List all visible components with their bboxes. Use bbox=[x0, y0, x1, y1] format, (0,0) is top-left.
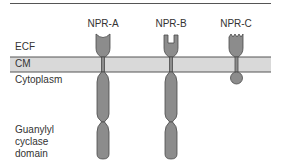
region-label-ecf: ECF bbox=[15, 41, 35, 53]
domain-label-line2: cyclase bbox=[15, 136, 54, 148]
domain-label: Guanylyl cyclase domain bbox=[15, 124, 54, 160]
receptor-label-npr-a: NPR-A bbox=[87, 18, 118, 29]
domain-label-line1: Guanylyl bbox=[15, 124, 54, 136]
cell-membrane bbox=[10, 57, 271, 72]
domain-label-line3: domain bbox=[15, 148, 54, 160]
region-label-cytoplasm: Cytoplasm bbox=[15, 74, 62, 86]
region-label-cm: CM bbox=[15, 58, 31, 70]
receptor-npr-b bbox=[164, 35, 178, 159]
receptor-label-npr-b: NPR-B bbox=[155, 18, 186, 29]
receptor-npr-a bbox=[96, 34, 110, 159]
receptor-label-npr-c: NPR-C bbox=[220, 18, 252, 29]
